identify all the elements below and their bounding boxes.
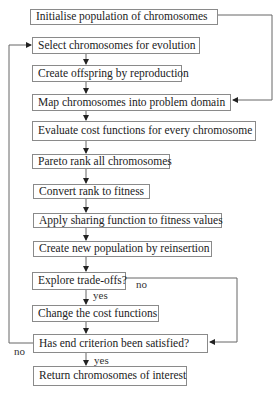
step-select: Select chromosomes for evolution <box>32 37 200 54</box>
edge-label-end-no: no <box>14 346 25 357</box>
step-label: Explore trade-offs? <box>38 275 127 287</box>
step-label: Convert rank to fitness <box>39 186 144 198</box>
decision-end-criterion: Has end criterion been satisfied? <box>33 334 208 353</box>
step-label: Apply sharing function to fitness values <box>39 215 223 227</box>
step-label: Map chromosomes into problem domain <box>38 97 225 109</box>
step-apply-sharing: Apply sharing function to fitness values <box>33 213 222 228</box>
decision-explore-tradeoffs: Explore trade-offs? <box>32 272 126 290</box>
step-initialise: Initialise population of chromosomes <box>30 9 218 25</box>
step-label: Evaluate cost functions for every chromo… <box>38 125 252 137</box>
step-reinsertion: Create new population by reinsertion <box>33 241 212 257</box>
step-label: Has end criterion been satisfied? <box>39 338 189 350</box>
step-convert-rank: Convert rank to fitness <box>33 184 150 199</box>
step-label: Return chromosomes of interest <box>39 370 186 382</box>
step-evaluate: Evaluate cost functions for every chromo… <box>32 121 256 141</box>
step-create-offspring: Create offspring by reproduction <box>32 65 182 82</box>
step-change-cost-functions: Change the cost functions <box>32 305 159 322</box>
step-label: Pareto rank all chromosomes <box>38 156 172 168</box>
edge-label-explore-yes: yes <box>93 290 108 301</box>
step-label: Change the cost functions <box>38 308 157 320</box>
step-label: Select chromosomes for evolution <box>38 40 195 52</box>
step-label: Create offspring by reproduction <box>38 68 189 80</box>
step-label: Create new population by reinsertion <box>39 243 210 255</box>
step-map: Map chromosomes into problem domain <box>32 94 231 111</box>
step-label: Initialise population of chromosomes <box>36 11 208 23</box>
step-return-chromosomes: Return chromosomes of interest <box>33 366 187 386</box>
edge-label-explore-no: no <box>136 279 147 290</box>
edge-label-end-yes: yes <box>94 355 109 366</box>
step-pareto-rank: Pareto rank all chromosomes <box>32 154 170 169</box>
